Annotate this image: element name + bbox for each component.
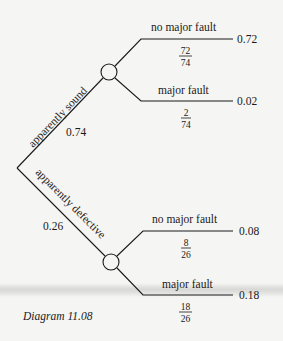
joint-defective-major-fault: 0.18 xyxy=(239,289,259,301)
frac-num-8: 8 xyxy=(184,238,189,248)
label-sound-no-major-fault: no major fault xyxy=(151,21,217,34)
label-sound-major-fault: major fault xyxy=(158,84,210,97)
figure-caption: Diagram 11.08 xyxy=(22,310,93,323)
branch-defective-no-major-fault xyxy=(117,231,233,256)
tree-diagram: apparently sound 0.74 apparently defecti… xyxy=(0,0,283,341)
joint-sound-no-major-fault: 0.72 xyxy=(237,33,257,45)
frac-den-74b: 74 xyxy=(181,120,191,130)
branch-sound-no-major-fault xyxy=(115,39,233,66)
frac-num-72: 72 xyxy=(181,46,191,56)
prob-apparently-defective: 0.26 xyxy=(43,220,63,232)
branch-apparently-sound xyxy=(17,78,103,168)
label-apparently-sound: apparently sound xyxy=(26,84,90,150)
joint-defective-no-major-fault: 0.08 xyxy=(239,225,259,237)
label-defective-no-major-fault: no major fault xyxy=(152,213,218,226)
branch-apparently-defective xyxy=(17,168,105,256)
joint-sound-major-fault: 0.02 xyxy=(237,95,257,107)
prob-apparently-sound: 0.74 xyxy=(66,126,86,138)
frac-den-26b: 26 xyxy=(181,314,191,324)
label-defective-major-fault: major fault xyxy=(162,278,214,291)
frac-num-18: 18 xyxy=(181,302,191,312)
chance-node-sound xyxy=(101,64,117,80)
frac-den-26: 26 xyxy=(181,250,191,260)
frac-num-2: 2 xyxy=(184,108,189,118)
chance-node-defective xyxy=(103,254,119,270)
frac-den-74: 74 xyxy=(181,58,191,68)
tree-diagram-figure: apparently sound 0.74 apparently defecti… xyxy=(0,0,283,341)
